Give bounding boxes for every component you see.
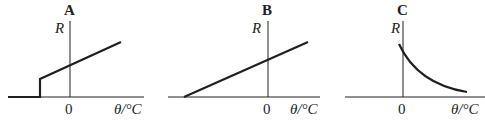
graph-c-title: C — [397, 2, 408, 18]
graph-b-x-label: θ/°C — [290, 101, 319, 117]
graph-a: A R 0 θ/°C — [8, 2, 144, 117]
graph-a-x-label: θ/°C — [114, 101, 143, 117]
graph-a-y-label: R — [54, 20, 64, 36]
graph-b-origin-tick: 0 — [263, 101, 271, 117]
graph-a-origin-tick: 0 — [65, 101, 73, 117]
graph-c-x-label: θ/°C — [451, 101, 480, 117]
resistance-temperature-graphs: A R 0 θ/°C B R 0 θ/°C C R 0 θ/°C — [0, 0, 485, 121]
graph-b-y-label: R — [251, 20, 261, 36]
graph-a-title: A — [64, 2, 75, 18]
graph-c-origin-tick: 0 — [398, 101, 406, 117]
graph-b: B R 0 θ/°C — [168, 2, 320, 117]
graph-a-curve — [8, 42, 121, 97]
graph-b-curve — [184, 42, 308, 97]
graph-c: C R 0 θ/°C — [345, 2, 485, 117]
graph-c-curve — [399, 44, 467, 92]
graph-c-y-label: R — [390, 20, 400, 36]
graph-b-title: B — [262, 2, 272, 18]
